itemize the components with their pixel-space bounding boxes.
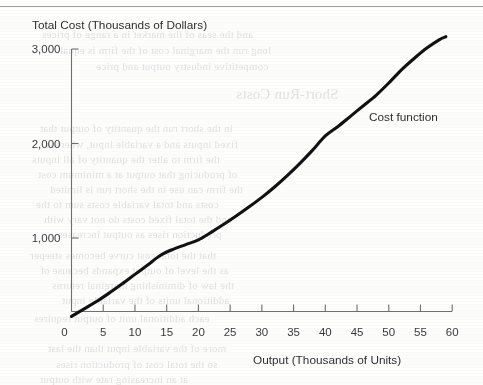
x-tick-label: 45 [351, 326, 364, 338]
y-tick-label: 2,000 [32, 138, 61, 150]
y-axis-title: Total Cost (Thousands of Dollars) [32, 18, 207, 32]
cost-function-annotation: Cost function [369, 110, 438, 124]
y-tick-label: 1,000 [32, 232, 61, 244]
x-axis-ticks: 051015202530354045505560 [61, 305, 458, 338]
x-tick-label: 25 [224, 326, 237, 338]
x-tick-label: 35 [287, 326, 300, 338]
x-tick-label: 50 [382, 326, 395, 338]
x-tick-label: 5 [100, 326, 106, 338]
x-tick-label: 10 [129, 326, 142, 338]
y-tick-label: 3,000 [32, 43, 61, 55]
x-tick-label: 40 [319, 326, 332, 338]
x-tick-label: 55 [414, 326, 427, 338]
x-tick-label: 20 [192, 326, 205, 338]
x-tick-label: 15 [160, 326, 173, 338]
x-tick-label: 60 [446, 326, 459, 338]
axis-titles: Total Cost (Thousands of Dollars) Output… [32, 18, 401, 367]
x-tick-label: 30 [255, 326, 268, 338]
x-axis-title: Output (Thousands of Units) [253, 353, 401, 367]
cost-function-curve [72, 37, 446, 317]
axes [72, 49, 453, 312]
x-tick-label: 0 [61, 326, 67, 338]
